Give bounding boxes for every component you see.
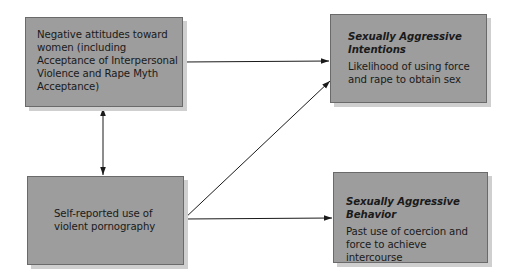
node-title: Sexually Aggressive Intentions (348, 30, 486, 56)
node-text: Likelihood of using force and rape to ob… (348, 60, 486, 86)
arrow-pornography-to-behavior (184, 218, 332, 219)
node-text: Past use of coercion and force to achiev… (346, 225, 486, 264)
node-text: Negative attitudes toward women (includi… (37, 28, 182, 93)
node-text: Self-reported use of violent pornography (54, 207, 184, 233)
node-violent-pornography: Self-reported use of violent pornography (27, 176, 184, 265)
node-aggressive-behavior: Sexually Aggressive Behavior Past use of… (333, 172, 488, 263)
arrow-pornography-to-intentions (184, 81, 330, 219)
node-title: Sexually Aggressive Behavior (346, 195, 486, 221)
arrow-attitudes-to-intentions (183, 61, 329, 62)
node-aggressive-intentions: Sexually Aggressive Intentions Likelihoo… (330, 14, 487, 103)
node-negative-attitudes: Negative attitudes toward women (includi… (25, 17, 183, 107)
